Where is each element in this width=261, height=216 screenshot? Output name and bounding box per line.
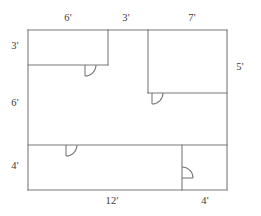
door-top-right-room-icon	[152, 93, 163, 104]
door-top-left-room-icon	[85, 65, 96, 76]
dimension-label-left-lower-height: 4'	[11, 160, 19, 171]
door-bottom-left-room-swing-arc	[66, 145, 77, 156]
dimension-label-left-middle-height: 6'	[11, 97, 19, 108]
wall-group	[28, 30, 227, 190]
floor-plan-diagram: 6'3'7'3'6'4'5'12'4'	[0, 0, 261, 216]
door-bottom-right-room-swing-arc	[182, 167, 193, 178]
floor-plan-canvas: 6'3'7'3'6'4'5'12'4'	[0, 0, 261, 216]
dimension-label-top-right-width: 7'	[188, 12, 196, 23]
door-bottom-right-room-icon	[182, 167, 193, 178]
dimension-label-bottom-left-width: 12'	[106, 195, 119, 206]
dimension-label-top-left-width: 6'	[64, 12, 72, 23]
dimension-label-right-upper-height: 5'	[236, 61, 244, 72]
dimension-label-top-middle-gap: 3'	[122, 12, 130, 23]
door-top-left-room-swing-arc	[85, 65, 96, 76]
door-top-right-room-swing-arc	[152, 93, 163, 104]
dimension-label-group: 6'3'7'3'6'4'5'12'4'	[11, 12, 244, 206]
door-group	[66, 65, 193, 178]
dimension-label-bottom-right-width: 4'	[201, 195, 209, 206]
door-bottom-left-room-icon	[66, 145, 77, 156]
dimension-label-left-upper-height: 3'	[11, 40, 19, 51]
